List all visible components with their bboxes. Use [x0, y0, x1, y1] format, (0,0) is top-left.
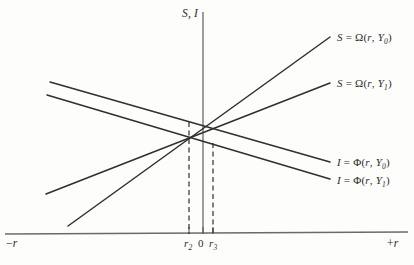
curve-label-investment-y1-eq: = [344, 174, 350, 186]
tick-label-zero: 0 [198, 237, 204, 249]
curve-label-investment-y0: I = Φ(r, Y0) [337, 156, 390, 171]
curve-lines [46, 37, 330, 226]
curve-investment-y0 [50, 82, 330, 162]
curve-label-investment-y0-var: I [337, 156, 341, 168]
x-axis-negative-var: r [13, 237, 18, 249]
curve-label-saving-y1-comma: , [372, 77, 375, 89]
curve-label-saving-y0-var: S [337, 31, 343, 43]
curve-label-investment-y0-comma: , [370, 156, 373, 168]
curve-label-saving-y0-close: ) [388, 31, 392, 43]
curve-label-saving-y0-comma: , [372, 31, 375, 43]
tick-label-r3: r3 [209, 237, 217, 252]
minus-sign: − [6, 237, 13, 249]
curve-label-investment-y1-var: I [337, 174, 341, 186]
curve-label-saving-y0: S = Ω(r, Y0) [337, 31, 392, 46]
curve-label-saving-y1-var: S [337, 77, 343, 89]
x-axis [5, 232, 408, 234]
curve-label-saving-y1: S = Ω(r, Y1) [337, 77, 392, 92]
curve-label-investment-y0-eq: = [344, 156, 350, 168]
curve-label-saving-y0-eq: = [346, 31, 352, 43]
curve-saving-y0 [68, 37, 330, 226]
tick-label-r2: r2 [184, 237, 192, 252]
economics-diagram: S, I −r +r r2 0 r3 S = Ω(r, Y0) S = Ω(r,… [0, 0, 414, 265]
x-axis-label-negative: −r [6, 237, 17, 249]
tick-label-r3-sub: 3 [213, 243, 217, 252]
tick-label-r2-sub: 2 [188, 243, 192, 252]
curve-label-investment-y1: I = Φ(r, Y1) [337, 174, 390, 189]
plus-sign: + [387, 237, 394, 249]
curve-label-saving-y1-close: ) [388, 77, 392, 89]
curve-saving-y1 [46, 83, 330, 194]
curve-label-saving-y1-eq: = [346, 77, 352, 89]
x-axis-label-positive: +r [387, 237, 398, 249]
x-axis-positive-var: r [394, 237, 399, 249]
curve-label-investment-y0-close: ) [386, 156, 390, 168]
curve-label-investment-y1-close: ) [386, 174, 390, 186]
curve-label-investment-y1-comma: , [370, 174, 373, 186]
y-axis-label: S, I [182, 7, 198, 19]
